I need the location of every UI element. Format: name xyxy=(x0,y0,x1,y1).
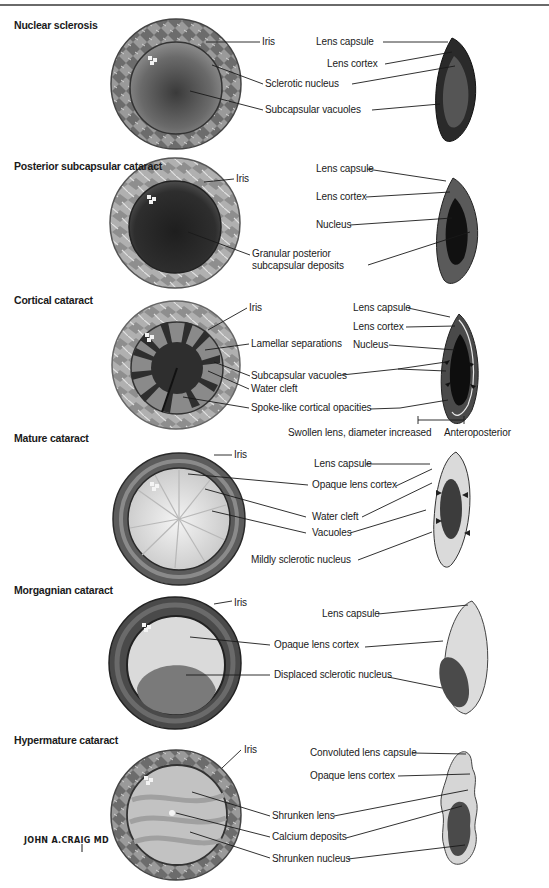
label-water-cleft: Water cleft xyxy=(251,383,297,394)
morgagnian-front xyxy=(109,597,241,729)
label-opaque-lens-cortex: Opaque lens cortex xyxy=(310,770,395,781)
label-lens-capsule: Lens capsule xyxy=(314,458,372,469)
label-anteroposterior: Anteroposterior xyxy=(444,427,511,438)
label-nucleus: Nucleus xyxy=(353,339,388,350)
label-lens-cortex: Lens cortex xyxy=(316,191,367,202)
label-lamellar-separations: Lamellar separations xyxy=(251,338,342,349)
label-displaced-sclerotic-nucleus: Displaced sclerotic nucleus xyxy=(274,669,392,680)
posterior-subcapsular-side xyxy=(437,178,478,283)
mature-front xyxy=(113,453,245,585)
label-shrunken-nucleus: Shrunken nucleus xyxy=(272,853,350,864)
label-opaque-lens-cortex: Opaque lens cortex xyxy=(312,479,397,490)
label-sclerotic-nucleus: Sclerotic nucleus xyxy=(265,78,339,89)
label-lens-capsule: Lens capsule xyxy=(353,302,411,313)
label-iris: Iris xyxy=(236,173,249,184)
label-iris: Iris xyxy=(262,36,275,47)
mature-side xyxy=(434,452,470,567)
label-lens-capsule: Lens capsule xyxy=(322,608,380,619)
label-vacuoles: Vacuoles xyxy=(312,527,352,538)
label-shrunken-lens: Shrunken lens xyxy=(272,810,335,821)
label-water-cleft: Water cleft xyxy=(312,511,358,522)
nuclear-sclerosis-front xyxy=(111,19,241,149)
hypermature-front xyxy=(111,750,241,880)
label-subcapsular-deposits: subcapsular deposits xyxy=(252,260,344,271)
label-spoke-like-opacities: Spoke-like cortical opacities xyxy=(251,402,372,413)
cataract-illustration xyxy=(0,0,549,888)
label-convoluted-lens-capsule: Convoluted lens capsule xyxy=(310,747,417,758)
title-posterior-subcapsular: Posterior subcapsular cataract xyxy=(14,160,162,172)
label-lens-capsule: Lens capsule xyxy=(316,36,374,47)
label-granular-posterior: Granular posterior xyxy=(252,248,331,259)
posterior-subcapsular-front xyxy=(110,158,240,288)
label-iris: Iris xyxy=(249,302,262,313)
title-morgagnian: Morgagnian cataract xyxy=(14,584,113,596)
label-iris: Iris xyxy=(234,597,247,608)
label-lens-capsule: Lens capsule xyxy=(316,163,374,174)
label-swollen-lens: Swollen lens, diameter increased xyxy=(288,427,432,438)
label-subcapsular-vacuoles: Subcapsular vacuoles xyxy=(265,104,361,115)
label-opaque-lens-cortex: Opaque lens cortex xyxy=(274,639,359,650)
label-iris: Iris xyxy=(244,744,257,755)
title-hypermature: Hypermature cataract xyxy=(14,734,118,746)
title-nuclear-sclerosis: Nuclear sclerosis xyxy=(14,19,98,31)
morgagnian-side xyxy=(439,601,487,714)
label-iris: Iris xyxy=(234,449,247,460)
label-mildly-sclerotic-nucleus: Mildly sclerotic nucleus xyxy=(251,554,351,565)
label-lens-cortex: Lens cortex xyxy=(353,321,404,332)
label-nucleus: Nucleus xyxy=(316,219,351,230)
label-subcapsular-vacuoles: Subcapsular vacuoles xyxy=(251,370,347,381)
label-calcium-deposits: Calcium deposits xyxy=(272,831,347,842)
label-lens-cortex: Lens cortex xyxy=(327,58,378,69)
cortical-side xyxy=(441,314,478,424)
title-cortical: Cortical cataract xyxy=(14,294,93,306)
title-mature: Mature cataract xyxy=(14,432,89,444)
artist-signature: JOHN A.CRAIG MD xyxy=(24,836,109,845)
